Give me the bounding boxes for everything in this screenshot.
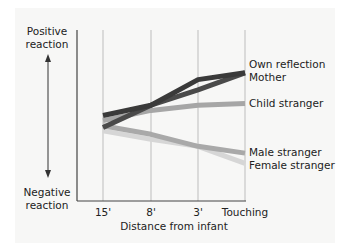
x-tick-label: Touching <box>221 206 268 218</box>
x-tick-label: 3' <box>193 206 203 218</box>
series-label: Female stranger <box>249 159 335 171</box>
series-labels: Own reflectionMotherChild strangerMale s… <box>249 58 335 171</box>
series-line-female-stranger <box>103 131 245 164</box>
reaction-arrow-icon <box>45 54 51 178</box>
x-tick-label: 15' <box>95 206 111 218</box>
y-label-negative-line2: reaction <box>26 199 69 211</box>
y-label-negative-line1: Negative <box>23 186 70 198</box>
y-label-positive-line1: Positive <box>27 25 67 37</box>
series-label: Child stranger <box>249 97 324 109</box>
series-lines <box>103 73 245 164</box>
series-line-male-stranger <box>103 126 245 153</box>
series-label: Own reflection <box>249 58 325 70</box>
x-axis-label: Distance from infant <box>120 220 228 232</box>
line-chart: 15'8'3'Touching Own reflectionMotherChil… <box>0 0 349 249</box>
series-label: Mother <box>249 71 287 83</box>
x-tick-labels: 15'8'3'Touching <box>95 206 268 218</box>
series-label: Male stranger <box>249 146 322 158</box>
series-line-mother <box>103 73 245 128</box>
x-tick-label: 8' <box>146 206 156 218</box>
y-label-positive-line2: reaction <box>26 38 69 50</box>
